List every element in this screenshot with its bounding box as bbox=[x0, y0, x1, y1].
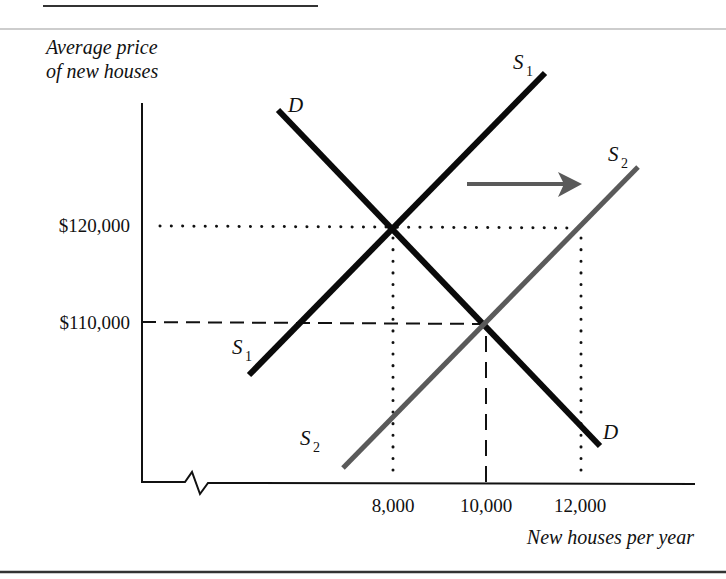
svg-text:1: 1 bbox=[526, 64, 533, 79]
label-s1-top: S 1 bbox=[513, 50, 533, 79]
svg-text:2: 2 bbox=[313, 440, 320, 455]
svg-text:S: S bbox=[232, 335, 243, 359]
supply-curve-s2 bbox=[343, 167, 638, 468]
label-s1-bottom: S 1 bbox=[232, 335, 252, 364]
y-axis-title-line1: Average price bbox=[44, 36, 158, 59]
y-tick-120000: $120,000 bbox=[59, 215, 130, 236]
label-s2-top: S 2 bbox=[608, 142, 628, 171]
svg-text:S: S bbox=[513, 50, 524, 74]
x-tick-8000: 8,000 bbox=[372, 495, 415, 516]
x-tick-12000: 12,000 bbox=[554, 495, 606, 516]
svg-text:S: S bbox=[608, 142, 619, 166]
supply-demand-chart: Average price of new houses D D S 1 S 1 … bbox=[0, 0, 726, 579]
svg-text:2: 2 bbox=[621, 156, 628, 171]
label-d-top: D bbox=[287, 93, 303, 117]
supply-curve-s1 bbox=[249, 73, 545, 375]
svg-text:S: S bbox=[300, 426, 311, 450]
label-d-bottom: D bbox=[602, 420, 618, 444]
x-tick-10000: 10,000 bbox=[460, 495, 512, 516]
demand-curve-d bbox=[278, 110, 600, 446]
x-axis-title: New houses per year bbox=[526, 526, 694, 549]
y-axis-title-line2: of new houses bbox=[46, 60, 158, 83]
svg-text:1: 1 bbox=[245, 349, 252, 364]
label-s2-bottom: S 2 bbox=[300, 426, 320, 455]
price-120k-dotted-line bbox=[160, 226, 580, 228]
y-tick-110000: $110,000 bbox=[59, 312, 130, 333]
shift-right-arrow-icon bbox=[467, 172, 582, 197]
price-110k-dashed-line bbox=[142, 322, 486, 324]
